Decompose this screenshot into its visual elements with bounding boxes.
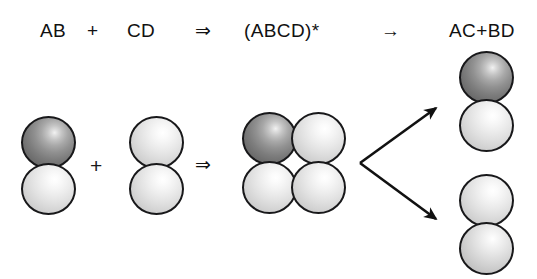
equation-reactant-ab-label: AB — [40, 21, 66, 40]
equation-complex-label: (ABCD)* — [244, 21, 320, 40]
product-atom-a-dark-sphere — [459, 51, 514, 104]
equation-reactant-cd-label: CD — [127, 21, 155, 40]
product-atom-d-light-sphere — [459, 222, 514, 275]
atom-d-light-sphere — [129, 163, 184, 215]
complex-atom-d-light-sphere — [291, 161, 346, 214]
equation-products-label: AC+BD — [449, 21, 515, 40]
atom-b-light-sphere — [21, 163, 76, 215]
molecule-row-plus-label: + — [90, 155, 102, 176]
branch-arrow-upper — [360, 108, 436, 163]
molecule-row-double-arrow-icon: ⇒ — [195, 155, 211, 174]
complex-atom-c-light-sphere — [291, 112, 346, 165]
equation-single-arrow-icon: → — [381, 21, 400, 40]
complex-atom-a-dark-sphere — [242, 112, 297, 165]
complex-atom-b-light-sphere — [242, 161, 297, 214]
equation-double-arrow-icon: ⇒ — [195, 21, 211, 40]
reaction-diagram: AB + CD ⇒ (ABCD)* → AC+BD + ⇒ — [0, 0, 537, 279]
atom-c-light-sphere — [129, 116, 184, 169]
equation-plus-label: + — [87, 21, 99, 40]
product-atom-b-light-sphere — [459, 174, 514, 227]
atom-a-dark-sphere — [21, 116, 76, 169]
branch-arrow-lower — [360, 163, 436, 219]
product-atom-c-light-sphere — [459, 99, 514, 152]
